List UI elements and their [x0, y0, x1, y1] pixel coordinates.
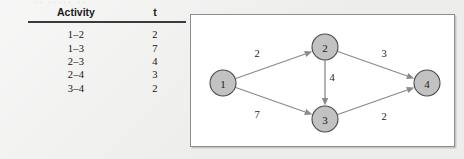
- edge-1-to-3: [236, 87, 305, 112]
- table-row: 1–2 2: [28, 23, 186, 42]
- table: Activity t 1–2 2 1–3 7: [28, 6, 186, 95]
- edge-label-3-4: 2: [381, 111, 386, 122]
- arrowhead-2-to-3: [322, 98, 328, 106]
- table-row: 1–3 7: [28, 42, 186, 55]
- network-diagram-panel: 1234 27432: [190, 14, 455, 147]
- node-label-4: 4: [424, 78, 430, 90]
- column-header-t: t: [124, 6, 186, 21]
- edge-3-to-4: [338, 90, 407, 115]
- table-body: 1–2 2 1–3 7 2–3 4 2–4 3 3–4 2: [28, 23, 186, 95]
- table-row: 2–4 3: [28, 68, 186, 81]
- edges-layer: [236, 51, 415, 115]
- node-label-2: 2: [322, 42, 328, 54]
- edge-label-2-4: 3: [381, 48, 386, 59]
- cell-t: 2: [124, 82, 186, 95]
- node-label-1: 1: [220, 78, 226, 90]
- cut-off-text-remnant: ·· ····· ··: [34, 0, 164, 5]
- edge-2-to-4: [338, 51, 407, 76]
- table-row: 2–3 4: [28, 55, 186, 68]
- cell-t: 3: [124, 68, 186, 81]
- table-header-row: Activity t: [28, 6, 186, 21]
- edge-1-to-2: [236, 54, 305, 79]
- edge-label-1-3: 7: [254, 109, 259, 120]
- cell-activity: 3–4: [28, 82, 124, 95]
- page-root: ·· ····· ·· Activity t 1–2 2: [0, 0, 464, 159]
- cell-activity: 2–4: [28, 68, 124, 81]
- cell-t: 4: [124, 55, 186, 68]
- activity-duration-table: Activity t 1–2 2 1–3 7: [28, 6, 186, 95]
- edge-label-1-2: 2: [254, 48, 259, 59]
- table-row: 3–4 2: [28, 82, 186, 95]
- arrowhead-3-to-4: [406, 87, 414, 93]
- cell-activity: 2–3: [28, 55, 124, 68]
- arrowhead-1-to-3: [304, 109, 312, 115]
- arrowhead-2-to-4: [406, 73, 414, 79]
- table-head: Activity t: [28, 6, 186, 23]
- cell-t: 7: [124, 42, 186, 55]
- edge-label-2-3: 4: [329, 72, 335, 83]
- cell-t: 2: [124, 23, 186, 42]
- cell-activity: 1–3: [28, 42, 124, 55]
- network-diagram-svg: 1234 27432: [191, 15, 456, 148]
- arrowhead-1-to-2: [304, 51, 312, 57]
- column-header-activity: Activity: [28, 6, 124, 21]
- node-label-3: 3: [322, 114, 328, 126]
- cell-activity: 1–2: [28, 23, 124, 42]
